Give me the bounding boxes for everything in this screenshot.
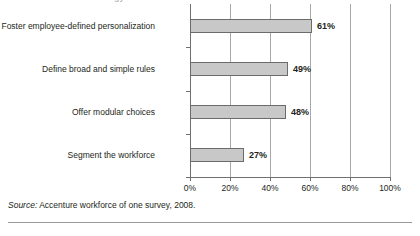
category-label: Foster employee-defined personalization xyxy=(1,19,155,33)
x-axis-tick-label: 60% xyxy=(301,183,318,193)
bar-chart-figure: workforce of one strategy 0%20%40%60%80%… xyxy=(0,0,420,236)
y-axis-tick xyxy=(186,177,190,178)
x-axis-tick-label: 100% xyxy=(379,183,401,193)
x-axis-tick-label: 0% xyxy=(184,183,196,193)
category-label: Define broad and simple rules xyxy=(42,62,155,76)
clipped-title-remnant: workforce of one strategy xyxy=(18,0,218,2)
gridline xyxy=(390,4,391,177)
y-axis-tick xyxy=(186,47,190,48)
y-axis-tick xyxy=(186,134,190,135)
bar xyxy=(190,62,288,76)
bar-value-label: 27% xyxy=(249,148,267,162)
source-label: Source: xyxy=(8,200,37,210)
x-axis-tick-label: 20% xyxy=(221,183,238,193)
bar-value-label: 61% xyxy=(317,19,335,33)
gridline xyxy=(350,4,351,177)
x-axis-tick xyxy=(230,177,231,181)
bar xyxy=(190,105,286,119)
bar-value-label: 49% xyxy=(293,62,311,76)
y-axis-tick xyxy=(186,91,190,92)
plot-area: 0%20%40%60%80%100% 61%Foster employee-de… xyxy=(190,4,390,177)
bar xyxy=(190,148,244,162)
source-note: Source: Accenture workforce of one surve… xyxy=(8,200,195,210)
x-axis-tick xyxy=(390,177,391,181)
source-text: Accenture workforce of one survey, 2008. xyxy=(37,200,195,210)
x-axis-tick xyxy=(270,177,271,181)
category-label: Segment the workforce xyxy=(68,148,155,162)
x-axis-tick xyxy=(310,177,311,181)
x-axis-line xyxy=(190,177,390,178)
footer-divider xyxy=(8,222,412,223)
x-axis-tick xyxy=(350,177,351,181)
x-axis-tick xyxy=(190,177,191,181)
bar-value-label: 48% xyxy=(291,105,309,119)
x-axis-tick-label: 40% xyxy=(261,183,278,193)
bar xyxy=(190,19,312,33)
category-label: Offer modular choices xyxy=(72,105,155,119)
x-axis-tick-label: 80% xyxy=(341,183,358,193)
